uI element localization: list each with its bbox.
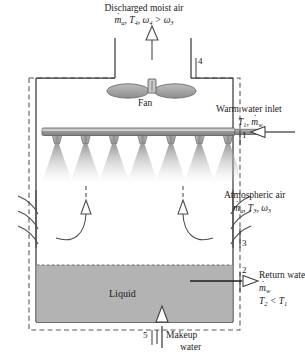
airflow-path-right <box>183 214 213 240</box>
internal-airflow-arrowheads <box>81 200 188 214</box>
nozzle <box>138 136 147 144</box>
internal-airflow-stems <box>86 186 183 200</box>
discharge-air-arrow <box>146 26 158 60</box>
fan-blade-right <box>154 84 196 98</box>
fan-label: Fan <box>138 98 152 110</box>
nozzle <box>52 136 61 144</box>
return-water-title: Return water <box>259 270 305 282</box>
t3-text: , T <box>243 203 253 213</box>
nozzle <box>166 136 175 144</box>
discharged-air-title: Discharged moist air <box>68 3 220 15</box>
mdot-w-symbol: m <box>251 117 258 129</box>
nozzle <box>81 136 90 144</box>
spray-cone <box>185 144 215 183</box>
cooling-tower-figure: Discharged moist air ma, T4, ω4 > ω3 Fan… <box>0 0 305 357</box>
spray-header-pipe <box>42 128 260 136</box>
subscript-1-2: 1 <box>284 300 287 307</box>
t4-text: , T <box>125 15 135 25</box>
warm-water-inlet-title: Warm water inlet <box>216 104 282 116</box>
fan-assembly <box>107 79 196 98</box>
atmospheric-air-title: Atmospheric air <box>224 190 285 202</box>
spray-cone <box>128 144 158 183</box>
return-water-mdot: mw <box>259 283 270 296</box>
warm-water-inlet-properties: T1, mw <box>238 117 262 130</box>
subscript-3b: 3 <box>268 207 271 214</box>
mdot-a-symbol: m <box>114 15 121 27</box>
fan-blade-left <box>107 84 149 98</box>
internal-airflow-arrows <box>56 214 213 240</box>
state-point-2: 2 <box>242 265 247 275</box>
mdot-a-symbol-2: m <box>233 203 240 215</box>
subscript-3: 3 <box>170 19 173 26</box>
nozzle <box>195 136 204 144</box>
atmospheric-air-properties: ma, T3, ω3 <box>233 203 271 216</box>
spray-cone <box>71 144 101 183</box>
state-point-1: 1 <box>242 130 247 140</box>
makeup-water-line1: Makeup <box>166 330 197 342</box>
nozzle <box>223 136 232 144</box>
state-point-4: 4 <box>198 56 203 66</box>
state-point-3: 3 <box>242 238 247 248</box>
subscript-w: w <box>258 121 262 128</box>
omega3-text: , ω <box>256 203 267 213</box>
spray-cone <box>42 144 72 183</box>
nozzle <box>109 136 118 144</box>
subscript-w-2: w <box>266 287 270 294</box>
omega4-text: , ω <box>138 15 149 25</box>
spray-cone <box>156 144 186 183</box>
state-point-5: 5 <box>143 330 148 340</box>
mdot-w-symbol-2: m <box>259 283 266 295</box>
airflow-path-left <box>56 214 86 240</box>
makeup-water-line2: water <box>180 342 201 354</box>
liquid-label: Liquid <box>109 288 136 300</box>
spray-cone <box>213 144 243 183</box>
outlet-arrowhead <box>243 276 258 287</box>
louver-left <box>18 190 38 248</box>
spray-cone <box>99 144 129 183</box>
discharged-air-properties: ma, T4, ω4 > ω3 <box>68 15 220 28</box>
gt-omega3-text: > ω <box>152 15 170 25</box>
lt-t1-text: < T <box>268 296 284 306</box>
spray-nozzle-array <box>42 136 243 183</box>
return-water-temperature: T2 < T1 <box>259 296 287 309</box>
